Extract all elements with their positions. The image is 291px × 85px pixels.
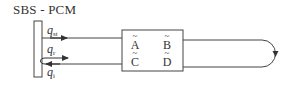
matrix-element-c: ~C: [129, 51, 141, 68]
label-q-i: qi: [47, 66, 55, 82]
pcm-mirror: [34, 21, 42, 77]
label-q-st: qst: [47, 24, 58, 40]
loop-return-arc: [262, 40, 276, 67]
loop-arrow-icon: [273, 51, 279, 57]
phase-conjugate-u-turn: [41, 58, 46, 64]
matrix-element-d: ~D: [161, 51, 173, 68]
label-q-r: qr: [47, 43, 55, 59]
loop-diagram: [0, 0, 291, 85]
